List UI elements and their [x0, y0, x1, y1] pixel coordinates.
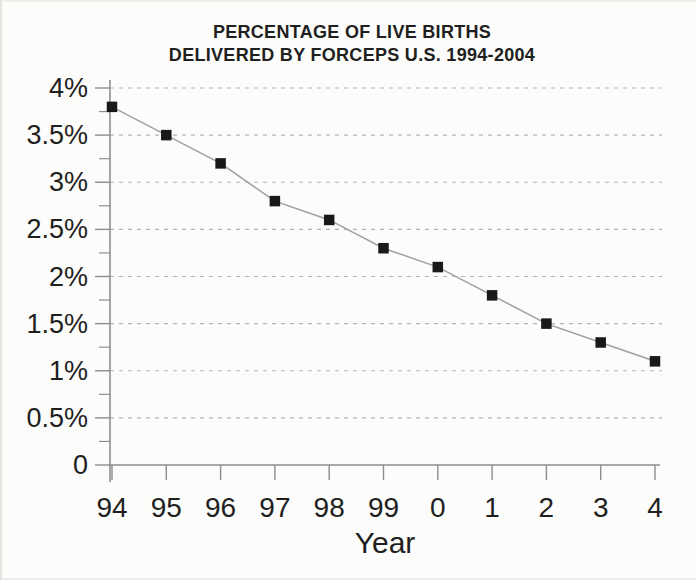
axes [110, 80, 660, 482]
data-point-marker [324, 215, 335, 226]
y-tick-label: 1% [4, 356, 88, 386]
data-point-marker [270, 196, 281, 207]
y-tick-label: 1.5% [4, 309, 88, 339]
x-tick-label: 4 [623, 493, 687, 523]
y-tick-label: 4% [4, 73, 88, 103]
axis-ticks [95, 88, 655, 480]
data-point-marker [215, 158, 226, 169]
y-tick-label: 0.5% [4, 403, 88, 433]
y-tick-label: 2% [4, 262, 88, 292]
y-tick-label: 2.5% [4, 214, 88, 244]
data-point-marker [433, 262, 444, 273]
data-series [107, 102, 661, 367]
x-axis-title: Year [110, 526, 660, 560]
data-point-marker [161, 130, 172, 141]
forceps-line-chart: PERCENTAGE OF LIVE BIRTHS DELIVERED BY F… [0, 0, 696, 580]
y-tick-label: 3% [4, 167, 88, 197]
data-point-marker [487, 290, 498, 301]
data-point-marker [107, 102, 118, 113]
y-tick-label: 3.5% [4, 120, 88, 150]
data-point-marker [378, 243, 389, 254]
data-point-marker [595, 337, 606, 348]
y-tick-label: 0 [4, 450, 88, 480]
data-point-marker [650, 356, 661, 367]
data-point-marker [541, 318, 552, 329]
